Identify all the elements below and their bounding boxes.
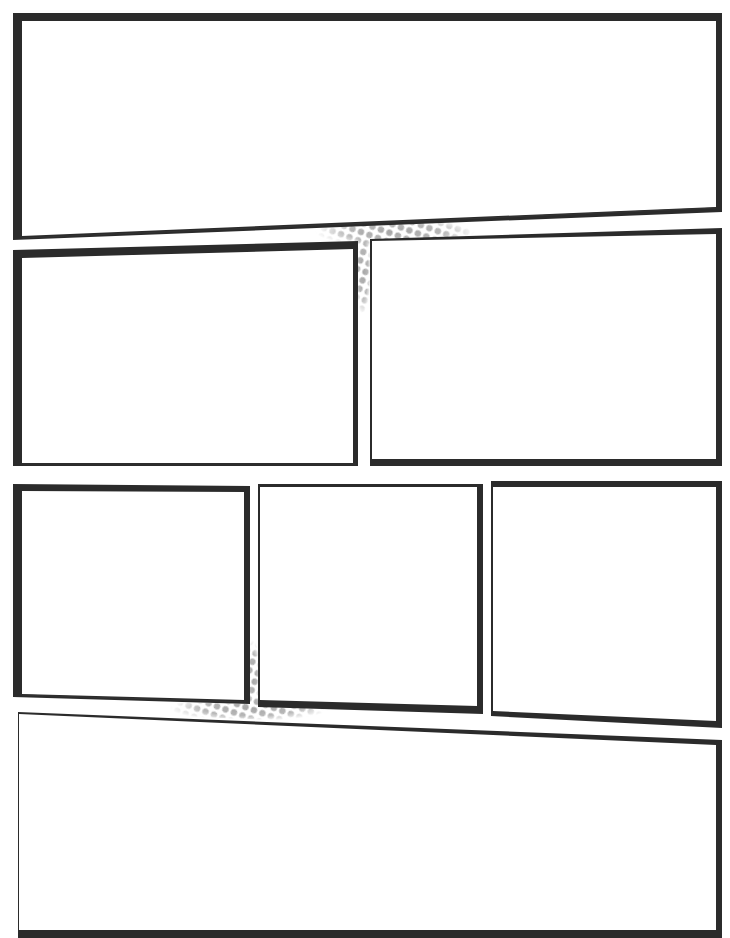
panel-7[interactable] xyxy=(18,712,722,938)
panel-6[interactable] xyxy=(491,481,722,728)
comic-page xyxy=(0,0,730,938)
panel-2[interactable] xyxy=(13,241,358,466)
panel-1[interactable] xyxy=(13,13,722,240)
panel-5[interactable] xyxy=(258,484,483,714)
panel-3[interactable] xyxy=(370,228,722,466)
panel-4[interactable] xyxy=(13,484,250,704)
